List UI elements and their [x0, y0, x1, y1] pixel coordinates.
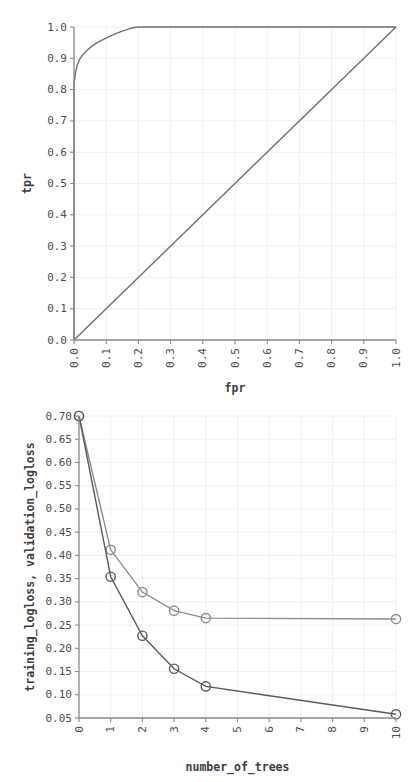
- logloss-curve-figure: 0123456789100.050.100.150.200.250.300.35…: [0, 400, 410, 782]
- y-tick-label: 0.40: [46, 549, 73, 562]
- x-tick-label: 8: [326, 726, 339, 733]
- y-tick-label: 0.20: [46, 642, 73, 655]
- y-tick-label: 0.35: [46, 572, 73, 585]
- x-tick-label: 4: [199, 726, 212, 733]
- x-tick-label: 0.1: [100, 348, 113, 368]
- y-tick-label: 0.55: [46, 479, 73, 492]
- y-tick-label: 0.9: [47, 52, 67, 65]
- y-tick-label: 0.60: [46, 456, 73, 469]
- y-tick-label: 0.65: [46, 433, 73, 446]
- x-tick-label: 5: [231, 726, 244, 733]
- y-tick-label: 0.30: [46, 595, 73, 608]
- x-tick-label: 0.6: [261, 348, 274, 368]
- y-tick-label: 0.5: [47, 177, 67, 190]
- y-axis-title: tpr: [20, 173, 34, 194]
- y-tick-label: 0.50: [46, 502, 73, 515]
- x-tick-label: 2: [136, 726, 149, 733]
- x-tick-label: 0: [73, 726, 86, 733]
- x-tick-label: 0.3: [164, 348, 177, 368]
- x-tick-label: 0.7: [293, 348, 306, 368]
- x-tick-label: 3: [168, 726, 181, 733]
- x-tick-label: 0.5: [229, 348, 242, 368]
- y-axis-title: training_logloss, validation_logloss: [23, 442, 38, 691]
- y-tick-label: 0.7: [47, 114, 67, 127]
- logloss-curve-plot: 0123456789100.050.100.150.200.250.300.35…: [0, 400, 410, 782]
- y-tick-label: 1.0: [47, 21, 67, 34]
- x-tick-label: 6: [263, 726, 276, 733]
- y-tick-label: 0.05: [46, 712, 73, 725]
- y-tick-label: 0.2: [47, 271, 67, 284]
- x-tick-label: 7: [294, 726, 307, 733]
- x-tick-label: 10: [390, 726, 403, 739]
- roc-curve-figure: 0.00.10.20.30.40.50.60.70.80.91.00.00.10…: [0, 0, 410, 400]
- y-tick-label: 0.1: [47, 302, 67, 315]
- y-tick-label: 0.25: [46, 619, 73, 632]
- x-tick-label: 0.2: [132, 348, 145, 368]
- x-tick-label: 0.4: [196, 348, 209, 368]
- x-axis-title: number_of_trees: [186, 760, 290, 775]
- y-tick-label: 0.10: [46, 688, 73, 701]
- y-tick-label: 0.45: [46, 526, 73, 539]
- x-tick-label: 0.0: [68, 348, 81, 368]
- y-tick-label: 0.3: [47, 240, 67, 253]
- x-tick-label: 0.8: [325, 348, 338, 368]
- x-tick-label: 9: [358, 726, 371, 733]
- y-tick-label: 0.15: [46, 665, 73, 678]
- x-axis-title: fpr: [225, 381, 246, 395]
- x-tick-label: 1: [104, 726, 117, 733]
- roc-curve-plot: 0.00.10.20.30.40.50.60.70.80.91.00.00.10…: [0, 0, 410, 400]
- y-tick-label: 0.70: [46, 410, 73, 423]
- y-tick-label: 0.6: [47, 146, 67, 159]
- y-tick-label: 0.0: [47, 334, 67, 347]
- y-tick-label: 0.4: [47, 208, 67, 221]
- y-tick-label: 0.8: [47, 83, 67, 96]
- x-tick-label: 1.0: [390, 348, 403, 368]
- x-tick-label: 0.9: [357, 348, 370, 368]
